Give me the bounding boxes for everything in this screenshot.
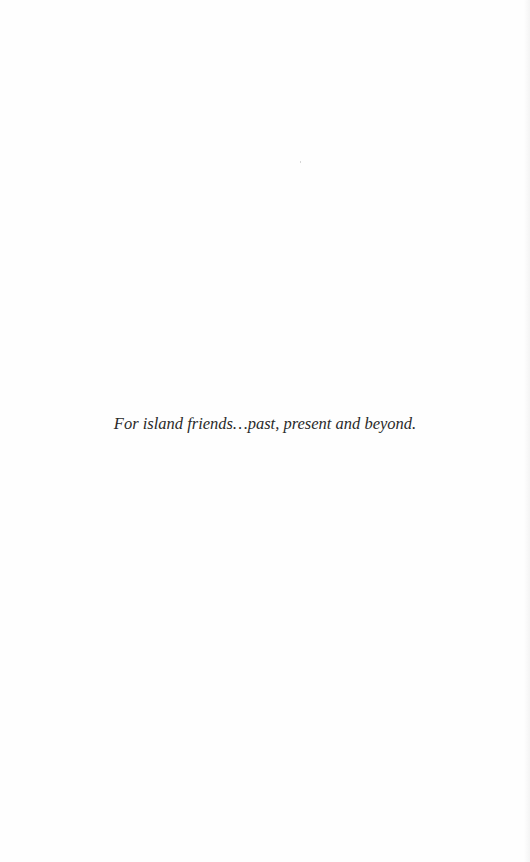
scan-speck (300, 161, 301, 163)
page-edge-shadow (524, 0, 530, 862)
book-page: For island friends…past, present and bey… (0, 0, 530, 862)
dedication-text: For island friends…past, present and bey… (0, 414, 530, 434)
